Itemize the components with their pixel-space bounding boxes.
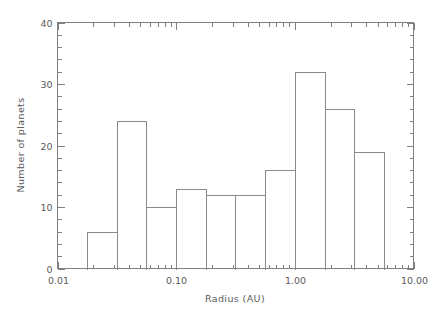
histogram-figure: 010203040 0.010.101.0010.00 Radius (AU) … [0, 0, 440, 316]
x-tick-label: 10.00 [401, 275, 428, 286]
x-tick-label: 1.00 [285, 275, 306, 286]
x-axis-title: Radius (AU) [205, 293, 265, 304]
histogram-canvas: 010203040 0.010.101.0010.00 Radius (AU) … [0, 0, 440, 316]
y-tick-label: 20 [40, 141, 52, 152]
y-tick-label: 30 [40, 79, 52, 90]
y-axis-tick-labels: 010203040 [40, 18, 52, 275]
y-tick-label: 0 [46, 264, 52, 275]
x-axis-major-ticks [59, 23, 415, 269]
x-tick-label: 0.10 [166, 275, 187, 286]
y-tick-label: 40 [40, 18, 52, 29]
x-axis-minor-ticks [94, 23, 409, 269]
y-tick-label: 10 [40, 202, 52, 213]
histogram-bar-outline [88, 73, 385, 270]
x-axis-tick-labels: 0.010.101.0010.00 [48, 275, 428, 286]
y-axis-title: Number of planets [15, 97, 26, 192]
histogram-bars [88, 73, 385, 270]
x-tick-label: 0.01 [48, 275, 69, 286]
